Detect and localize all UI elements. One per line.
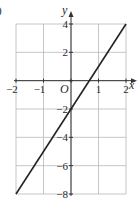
y-axis-arrow-icon bbox=[69, 11, 74, 17]
y-tick-label: −4 bbox=[56, 131, 68, 143]
x-tick-label: 1 bbox=[96, 83, 102, 95]
x-tick-label: 2 bbox=[123, 83, 129, 95]
x-tick-label: −2 bbox=[6, 83, 18, 95]
y-tick-label: −8 bbox=[56, 188, 68, 200]
corner-label: ) bbox=[0, 4, 2, 17]
line-graph: ) −2−11242−2−4−6−8 x y O bbox=[0, 0, 138, 201]
x-axis-label: x bbox=[128, 78, 135, 92]
y-tick-label: 2 bbox=[63, 46, 69, 58]
x-tick-label: −1 bbox=[34, 83, 46, 95]
y-axis-label: y bbox=[61, 3, 68, 17]
y-tick-label: 4 bbox=[63, 18, 69, 30]
y-tick-label: −6 bbox=[56, 160, 68, 172]
origin-label: O bbox=[60, 82, 69, 96]
y-tick-label: −2 bbox=[56, 103, 68, 115]
